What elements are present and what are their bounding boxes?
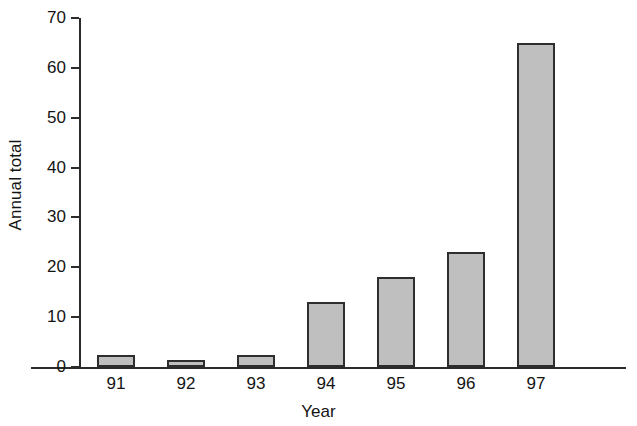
bar-97 [517,43,555,367]
bars-group [0,0,637,426]
bar-91 [97,355,135,367]
bar-chart-figure: Annual total 010203040506070 91929394959… [0,0,637,426]
bar-94 [307,302,345,367]
x-axis-title: Year [0,402,637,422]
bar-95 [377,277,415,367]
bar-96 [447,252,485,367]
bar-93 [237,355,275,367]
bar-92 [167,360,205,367]
